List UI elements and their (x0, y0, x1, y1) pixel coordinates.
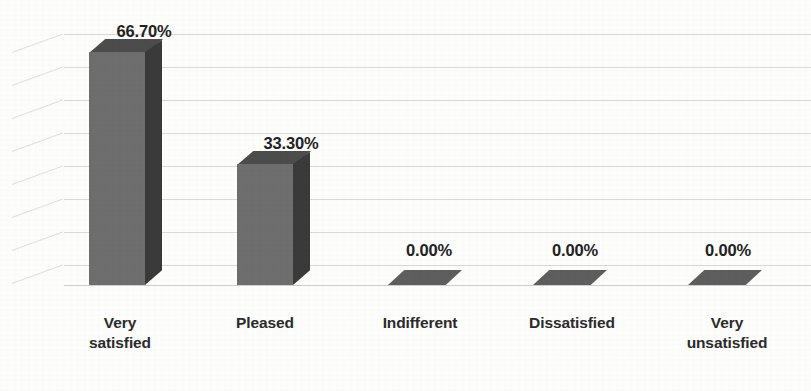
value-label-pleased: 33.30% (232, 134, 350, 153)
gridline-50 (64, 133, 811, 134)
depth-line-70 (12, 67, 63, 86)
bar-pleased (237, 164, 293, 285)
depth-line-10 (12, 265, 63, 284)
category-label-line2: unsatisfied (660, 333, 794, 353)
bar-indifferent (388, 270, 462, 285)
bar-side-face (293, 152, 310, 285)
satisfaction-bar-chart: 66.70% 33.30% 0.00% 0.00% 0.00% Very sat… (0, 0, 811, 391)
bar-front-face (237, 164, 293, 285)
gridline-40 (64, 166, 811, 167)
category-label-very-unsatisfied: Very unsatisfied (660, 313, 794, 353)
gridline-20 (64, 232, 811, 233)
gridline-60 (64, 100, 811, 101)
value-label-very-satisfied: 66.70% (85, 22, 203, 41)
category-label-very-satisfied: Very satisfied (60, 313, 180, 353)
bar-side-face (145, 40, 162, 285)
bar-very-unsatisfied (688, 270, 762, 285)
value-label-indifferent: 0.00% (374, 241, 484, 260)
bar-very-satisfied (89, 52, 145, 285)
axis-baseline (64, 285, 811, 286)
value-label-very-unsatisfied: 0.00% (673, 241, 783, 260)
gridline-10 (64, 265, 811, 266)
depth-line-50 (12, 133, 63, 152)
gridline-70 (64, 67, 811, 68)
bar-front-face (89, 52, 145, 285)
gridline-30 (64, 199, 811, 200)
category-label-pleased: Pleased (205, 313, 325, 333)
category-label-line1: Indifferent (355, 313, 485, 333)
value-label-dissatisfied: 0.00% (520, 241, 630, 260)
category-label-line1: Dissatisfied (503, 313, 641, 333)
category-label-line1: Pleased (205, 313, 325, 333)
category-label-line1: Very (660, 313, 794, 333)
category-label-line1: Very (60, 313, 180, 333)
depth-line-40 (12, 166, 63, 185)
category-label-indifferent: Indifferent (355, 313, 485, 333)
depth-line-20 (12, 232, 63, 251)
depth-line-30 (12, 199, 63, 218)
bar-dissatisfied (533, 270, 607, 285)
category-label-line2: satisfied (60, 333, 180, 353)
category-label-dissatisfied: Dissatisfied (503, 313, 641, 333)
depth-line-60 (12, 100, 63, 119)
depth-line-80 (12, 34, 63, 53)
